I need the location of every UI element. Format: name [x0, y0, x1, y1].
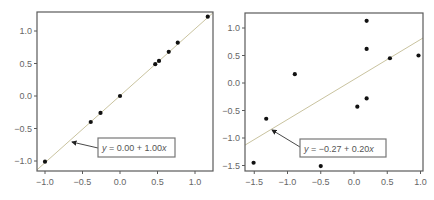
data-point	[388, 56, 392, 60]
y-tick-label: 0.0	[227, 78, 240, 88]
data-point	[153, 62, 157, 66]
data-point	[157, 59, 161, 63]
annotation-arrow	[72, 142, 98, 148]
regression-line	[245, 38, 423, 145]
y-tick-label: 0.0	[19, 91, 32, 101]
x-tick-label: 0.0	[348, 177, 361, 187]
data-point	[355, 105, 359, 109]
scatter-plot-left: −1.0−0.50.00.51.0−1.0−0.50.00.51.0y = 0.…	[14, 12, 214, 187]
data-point	[365, 47, 369, 51]
figure: −1.0−0.50.00.51.0−1.0−0.50.00.51.0y = 0.…	[0, 0, 434, 200]
y-tick-label: −0.5	[222, 106, 240, 116]
data-point	[293, 72, 297, 76]
data-point	[43, 160, 47, 164]
x-tick-label: −1.5	[245, 177, 263, 187]
x-tick-label: 0.0	[114, 177, 127, 187]
data-point	[251, 161, 255, 165]
data-point	[118, 94, 122, 98]
x-tick-label: −0.5	[312, 177, 330, 187]
data-point	[365, 19, 369, 23]
y-tick-label: −1.0	[14, 156, 32, 166]
y-tick-label: −1.5	[222, 161, 240, 171]
data-point	[319, 164, 323, 168]
annotation-arrow	[272, 130, 300, 147]
y-tick-label: −0.5	[14, 124, 32, 134]
data-point	[365, 96, 369, 100]
x-tick-label: 1.0	[189, 177, 202, 187]
data-point	[264, 117, 268, 121]
x-tick-label: 0.5	[381, 177, 394, 187]
equation-label: y = −0.27 + 0.20x	[303, 144, 374, 154]
equation-label: y = 0.00 + 1.00x	[101, 143, 167, 153]
data-point	[98, 111, 102, 115]
y-tick-label: 1.0	[227, 23, 240, 33]
data-point	[167, 50, 171, 54]
x-tick-label: 1.0	[414, 177, 427, 187]
x-tick-label: 0.5	[151, 177, 164, 187]
x-tick-label: −1.0	[36, 177, 54, 187]
data-point	[206, 15, 210, 19]
data-point	[416, 53, 420, 57]
scatter-plot-right: −1.5−1.0−0.50.00.51.0−1.5−1.0−0.50.00.51…	[222, 13, 427, 187]
y-tick-label: 0.5	[19, 59, 32, 69]
y-tick-label: 1.0	[19, 26, 32, 36]
data-point	[176, 41, 180, 45]
y-tick-label: −1.0	[222, 133, 240, 143]
x-tick-label: −0.5	[74, 177, 92, 187]
data-point	[89, 120, 93, 124]
y-tick-label: 0.5	[227, 51, 240, 61]
x-tick-label: −1.0	[279, 177, 297, 187]
